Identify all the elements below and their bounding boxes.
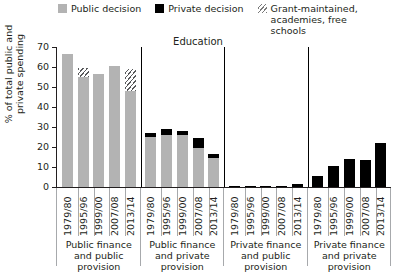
x-tick-slot: 1995/96 <box>328 188 339 236</box>
bar-segment-private <box>229 186 240 187</box>
legend-item-grant-maintained: Grant-maintained, academies, free school… <box>258 3 381 36</box>
bar-segment-private <box>360 160 371 187</box>
y-axis-tick-label: 40 <box>37 101 49 112</box>
y-axis-tick-label: 50 <box>37 81 49 92</box>
y-axis-tick: 30 <box>52 127 56 128</box>
x-tick-slot: 1999/00 <box>260 188 271 236</box>
y-axis-tick: 40 <box>52 107 56 108</box>
bar-segment-private <box>328 166 339 187</box>
bar[interactable] <box>292 47 303 187</box>
x-axis-tick-label: 1995/96 <box>161 189 172 236</box>
bar-segment-private <box>276 186 287 187</box>
y-axis-tick: 50 <box>52 87 56 88</box>
bar[interactable] <box>328 47 339 187</box>
x-tick-slot: 2007/08 <box>276 188 287 236</box>
x-tick-slot: 2013/14 <box>125 188 136 236</box>
group-caption: Private finance and public provision <box>224 238 308 278</box>
chart-legend: Public decision Private decision Grant-m… <box>58 3 396 33</box>
x-axis-tick-label: 1995/96 <box>245 189 256 236</box>
y-axis-tick: 70 <box>52 47 56 48</box>
bar[interactable] <box>276 47 287 187</box>
x-axis-tick-label: 2007/08 <box>276 189 287 236</box>
bar[interactable] <box>177 47 188 187</box>
legend-item-public-decision: Public decision <box>58 3 141 14</box>
x-axis-tick-label: 1999/00 <box>177 189 188 236</box>
bar-segment-public <box>62 54 73 187</box>
bar[interactable] <box>375 47 386 187</box>
y-axis-tick-label: 60 <box>37 61 49 72</box>
bar[interactable] <box>109 47 120 187</box>
bar-segment-grant <box>125 69 136 91</box>
legend-label-public-decision: Public decision <box>71 3 141 14</box>
x-tick-slot: 1999/00 <box>177 188 188 236</box>
bar[interactable] <box>62 47 73 187</box>
bar[interactable] <box>145 47 156 187</box>
bar-segment-private <box>193 138 204 148</box>
x-tick-slot: 2013/14 <box>208 188 219 236</box>
bar-segment-public <box>145 137 156 187</box>
bar-segment-public <box>161 135 172 187</box>
bar-segment-public <box>125 91 136 187</box>
y-axis-tick-label: 30 <box>37 121 49 132</box>
y-axis-tick-label: 70 <box>37 41 49 52</box>
bar[interactable] <box>344 47 355 187</box>
legend-label-private-decision: Private decision <box>168 3 243 14</box>
x-tick-slot: 1995/96 <box>245 188 256 236</box>
bar-segment-private <box>312 176 323 187</box>
bar[interactable] <box>193 47 204 187</box>
x-axis-group: 1979/801995/961999/002007/082013/14 <box>57 188 141 236</box>
y-axis-tick-label: 20 <box>37 141 49 152</box>
bar-segment-private <box>375 143 386 187</box>
bar[interactable] <box>161 47 172 187</box>
group-caption: Public finance and private provision <box>141 238 225 278</box>
private-decision-swatch <box>155 4 164 13</box>
bar[interactable] <box>229 47 240 187</box>
y-axis-label: % of total public and private spending <box>3 9 31 139</box>
bar-segment-public <box>78 77 89 187</box>
x-axis-tick-label: 1979/80 <box>62 189 73 236</box>
bar[interactable] <box>208 47 219 187</box>
x-axis-tick-label: 2013/14 <box>208 189 219 236</box>
bar-segment-public <box>177 135 188 187</box>
bar-group <box>224 47 308 187</box>
bar-segment-private <box>344 159 355 187</box>
bar[interactable] <box>245 47 256 187</box>
x-axis-tick-label: 1979/80 <box>145 189 156 236</box>
bar[interactable] <box>125 47 136 187</box>
bar[interactable] <box>360 47 371 187</box>
x-tick-slot: 1999/00 <box>344 188 355 236</box>
x-axis-tick-label: 1995/96 <box>78 189 89 236</box>
x-axis-tick-label: 2013/14 <box>375 189 386 236</box>
legend-label-grant-maintained: Grant-maintained, academies, free school… <box>271 3 381 36</box>
x-tick-slot: 2013/14 <box>375 188 386 236</box>
y-axis-tick-label: 0 <box>43 181 49 192</box>
bar-group <box>57 47 141 187</box>
group-captions: Public finance and public provisionPubli… <box>57 238 391 278</box>
x-axis-tick-label: 1979/80 <box>229 189 240 236</box>
bar[interactable] <box>260 47 271 187</box>
x-tick-slot: 1979/80 <box>62 188 73 236</box>
bar-segment-public <box>208 158 219 187</box>
bar[interactable] <box>78 47 89 187</box>
bar-segment-public <box>109 66 120 187</box>
bar[interactable] <box>312 47 323 187</box>
x-tick-slot: 1995/96 <box>161 188 172 236</box>
chart-title: Education <box>0 36 396 47</box>
bar-group <box>308 47 392 187</box>
group-caption: Private finance and private provision <box>308 238 392 278</box>
x-axis-tick-label: 2007/08 <box>360 189 371 236</box>
x-axis-tick-label: 2007/08 <box>109 189 120 236</box>
x-axis-tick-label: 1995/96 <box>328 189 339 236</box>
y-axis-tick: 10 <box>52 167 56 168</box>
grant-maintained-swatch <box>258 4 267 13</box>
y-axis-tick: 60 <box>52 67 56 68</box>
x-axis-tick-labels: 1979/801995/961999/002007/082013/141979/… <box>57 188 391 236</box>
x-axis-tick-label: 1999/00 <box>260 189 271 236</box>
x-tick-slot: 2007/08 <box>109 188 120 236</box>
x-tick-slot: 2013/14 <box>292 188 303 236</box>
bar[interactable] <box>93 47 104 187</box>
x-tick-slot: 1995/96 <box>78 188 89 236</box>
public-decision-swatch <box>58 4 67 13</box>
x-tick-slot: 1999/00 <box>93 188 104 236</box>
education-spending-chart: Public decision Private decision Grant-m… <box>0 0 396 278</box>
